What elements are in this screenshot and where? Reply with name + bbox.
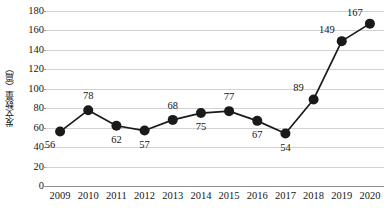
series-markers	[55, 19, 375, 139]
y-tick-label: 40	[18, 142, 44, 153]
data-point	[365, 19, 375, 29]
data-point	[140, 126, 150, 136]
y-tick-label: 160	[18, 25, 44, 36]
x-axis-line	[46, 186, 384, 187]
data-point	[252, 116, 262, 126]
y-tick-label: 80	[18, 103, 44, 114]
data-point	[196, 108, 206, 118]
y-tick-label: 120	[18, 64, 44, 75]
y-tick-label: 20	[18, 161, 44, 172]
data-point	[55, 127, 65, 137]
y-tick-label: 60	[18, 122, 44, 133]
data-point-label: 62	[111, 134, 122, 145]
x-axis-tick-labels: 2009201020112012201320142015201620172018…	[46, 190, 384, 210]
data-point	[168, 115, 178, 125]
data-point-label: 68	[168, 101, 179, 112]
data-point-label: 77	[224, 92, 235, 103]
data-point-label: 56	[45, 139, 56, 150]
series-line	[46, 11, 384, 186]
data-point-label: 78	[83, 91, 94, 102]
y-axis-title-text: 发文数量（篇）	[2, 64, 15, 127]
data-point-label: 149	[319, 25, 335, 36]
plot-area: 56786257687577675489149167	[46, 11, 384, 186]
data-point	[309, 94, 319, 104]
y-axis-tick-labels: 020406080100120140160180	[14, 0, 44, 218]
data-point	[337, 36, 347, 46]
data-point-label: 167	[347, 7, 363, 18]
y-tick-label: 100	[18, 84, 44, 95]
line-chart: 发文数量（篇） 020406080100120140160180 5678625…	[0, 0, 391, 218]
y-tick-label: 140	[18, 45, 44, 56]
data-point	[83, 105, 93, 115]
y-tick-label: 180	[18, 6, 44, 17]
data-point-label: 89	[293, 83, 304, 94]
data-point-label: 54	[280, 142, 291, 153]
data-point-label: 75	[196, 122, 207, 133]
x-tick-label: 2020	[353, 190, 387, 202]
series-polyline	[60, 24, 370, 134]
data-point-label: 57	[139, 139, 150, 150]
data-point	[280, 129, 290, 139]
data-point-label: 67	[252, 130, 263, 141]
y-tick-label: 0	[18, 181, 44, 192]
data-point	[111, 121, 121, 131]
data-point	[224, 106, 234, 116]
